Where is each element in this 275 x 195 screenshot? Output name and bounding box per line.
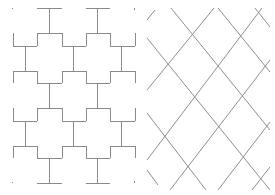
diagonal-lattice-pattern — [138, 0, 275, 195]
right-pattern-panel — [138, 0, 275, 195]
left-pattern-panel — [0, 0, 140, 195]
stepped-tree-pattern — [0, 0, 140, 195]
